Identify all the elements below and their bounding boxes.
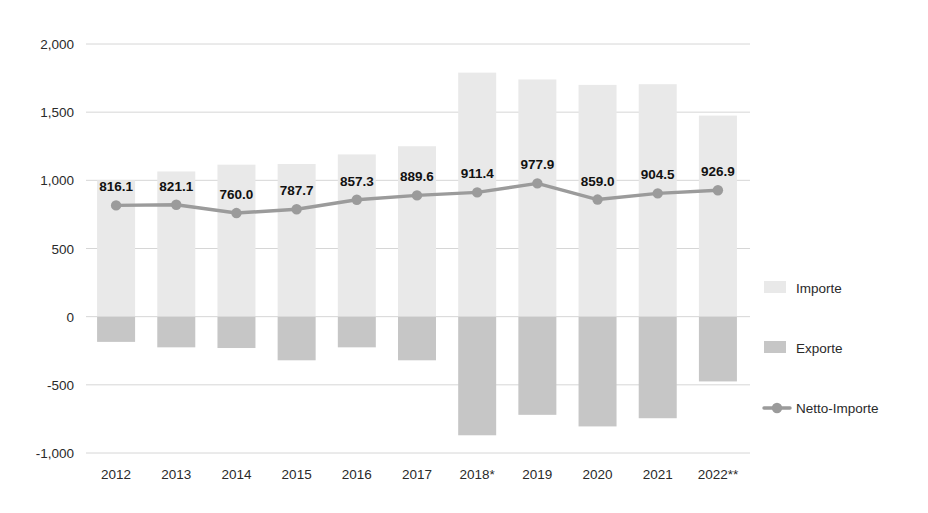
y-axis-tick-label: -1,000 bbox=[36, 446, 74, 461]
legend-marker-icon bbox=[772, 403, 782, 413]
import-bar bbox=[518, 79, 556, 316]
export-bars-series bbox=[97, 317, 737, 436]
y-axis-tick-labels: -1,000-50005001,0001,5002,000 bbox=[36, 37, 74, 461]
net-import-marker bbox=[472, 187, 482, 197]
data-value-label: 760.0 bbox=[220, 187, 254, 202]
data-value-label: 889.6 bbox=[400, 169, 434, 184]
y-axis-tick-label: 1,500 bbox=[40, 105, 74, 120]
net-import-marker bbox=[592, 194, 602, 204]
export-bar bbox=[398, 317, 436, 361]
x-axis-tick-label: 2012 bbox=[101, 467, 131, 482]
export-bar bbox=[157, 317, 195, 348]
legend-item-label: Netto-Importe bbox=[796, 401, 879, 416]
y-axis-tick-label: 2,000 bbox=[40, 37, 74, 52]
x-axis-tick-label: 2014 bbox=[221, 467, 252, 482]
legend-swatch-icon bbox=[764, 341, 786, 353]
data-value-label: 816.1 bbox=[99, 179, 133, 194]
net-import-marker bbox=[532, 178, 542, 188]
x-axis-tick-label: 2022** bbox=[698, 467, 739, 482]
net-import-marker bbox=[352, 195, 362, 205]
export-bar bbox=[518, 317, 556, 415]
x-axis-tick-label: 2017 bbox=[402, 467, 432, 482]
data-value-label: 904.5 bbox=[641, 167, 675, 182]
net-import-marker bbox=[111, 200, 121, 210]
x-axis-tick-label: 2020 bbox=[583, 467, 613, 482]
export-bar bbox=[699, 317, 737, 382]
import-bar bbox=[639, 84, 677, 316]
net-import-marker bbox=[653, 188, 663, 198]
net-import-marker bbox=[171, 200, 181, 210]
x-axis-tick-label: 2013 bbox=[161, 467, 191, 482]
legend-item-label: Importe bbox=[796, 281, 842, 296]
y-axis-tick-label: 500 bbox=[51, 242, 74, 257]
export-bar bbox=[97, 317, 135, 342]
net-import-marker bbox=[231, 208, 241, 218]
chart-container: -1,000-50005001,0001,5002,000 816.1821.1… bbox=[0, 0, 928, 513]
data-value-label: 926.9 bbox=[701, 164, 735, 179]
data-value-label: 821.1 bbox=[159, 179, 193, 194]
data-value-label: 857.3 bbox=[340, 174, 374, 189]
net-import-marker bbox=[412, 190, 422, 200]
export-bar bbox=[579, 317, 617, 427]
x-axis-tick-label: 2018* bbox=[460, 467, 496, 482]
export-bar bbox=[639, 317, 677, 419]
y-axis-tick-label: 1,000 bbox=[40, 173, 74, 188]
data-value-label: 911.4 bbox=[461, 166, 495, 181]
x-axis-tick-label: 2016 bbox=[342, 467, 372, 482]
chart-plot-area: -1,000-50005001,0001,5002,000 816.1821.1… bbox=[0, 0, 928, 513]
data-value-label: 787.7 bbox=[280, 183, 314, 198]
legend-item-label: Exporte bbox=[796, 341, 843, 356]
x-axis-tick-label: 2019 bbox=[522, 467, 552, 482]
import-bar bbox=[699, 116, 737, 317]
net-import-marker bbox=[291, 204, 301, 214]
export-bar bbox=[338, 317, 376, 348]
legend-swatch-icon bbox=[764, 281, 786, 293]
data-value-label: 977.9 bbox=[520, 157, 554, 172]
y-axis-tick-label: 0 bbox=[66, 310, 74, 325]
export-bar bbox=[458, 317, 496, 436]
x-axis-tick-label: 2021 bbox=[643, 467, 673, 482]
data-value-label: 859.0 bbox=[581, 174, 615, 189]
x-axis-tick-labels: 2012201320142015201620172018*20192020202… bbox=[101, 467, 739, 482]
y-axis-tick-label: -500 bbox=[47, 378, 74, 393]
chart-legend: ImporteExporteNetto-Importe bbox=[764, 281, 879, 416]
x-axis-tick-label: 2015 bbox=[282, 467, 312, 482]
net-import-marker bbox=[713, 185, 723, 195]
export-bar bbox=[278, 317, 316, 361]
export-bar bbox=[217, 317, 255, 348]
